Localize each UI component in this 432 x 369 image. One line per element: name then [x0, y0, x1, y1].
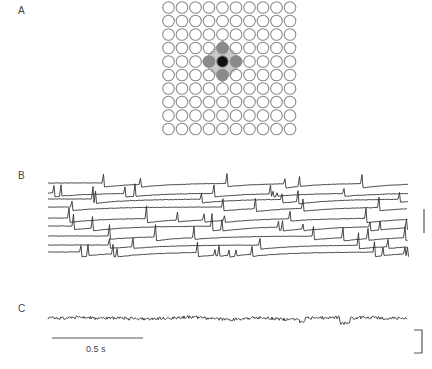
electrode-circle: [217, 15, 229, 27]
electrode-circle: [271, 123, 283, 135]
electrode-circle: [230, 56, 242, 68]
electrode-circle: [284, 42, 296, 54]
electrode-circle: [257, 56, 269, 68]
electrode-circle: [203, 2, 215, 14]
electrode-circle: [176, 123, 188, 135]
electrode-circle: [163, 123, 175, 135]
amplitude-scale-bracket: [414, 330, 422, 353]
electrode-circle: [271, 69, 283, 81]
electrode-circle: [271, 15, 283, 27]
electrode-circle: [217, 69, 229, 81]
electrode-circle: [230, 69, 242, 81]
electrode-circle: [176, 29, 188, 41]
single-trace-recording: [48, 316, 422, 353]
electrode-circle: [190, 96, 202, 108]
electrode-circle: [257, 15, 269, 27]
electrode-circle: [284, 56, 296, 68]
electrode-circle: [176, 83, 188, 95]
electrode-circle: [284, 110, 296, 122]
electrode-circle: [271, 83, 283, 95]
electrode-circle: [284, 29, 296, 41]
electrode-circle: [230, 123, 242, 135]
electrode-circle: [176, 96, 188, 108]
electrode-circle: [230, 15, 242, 27]
electrode-circle: [190, 83, 202, 95]
electrode-circle: [244, 42, 256, 54]
electrode-circle: [257, 29, 269, 41]
electrode-circle: [257, 96, 269, 108]
electrode-circle: [163, 2, 175, 14]
electrode-circle: [190, 29, 202, 41]
electrode-circle: [217, 110, 229, 122]
electrode-circle: [230, 29, 242, 41]
electrode-circle: [176, 15, 188, 27]
electrode-circle: [244, 69, 256, 81]
electrode-circle: [284, 96, 296, 108]
trace-line: [48, 174, 408, 188]
electrode-circle: [190, 110, 202, 122]
electrode-circle: [271, 42, 283, 54]
electrode-circle: [271, 96, 283, 108]
electrode-circle: [284, 15, 296, 27]
electrode-circle: [217, 83, 229, 95]
electrode-circle: [163, 56, 175, 68]
electrode-circle: [190, 2, 202, 14]
electrode-circle: [176, 2, 188, 14]
electrode-circle: [203, 123, 215, 135]
electrode-grid: [163, 2, 296, 135]
electrode-circle: [257, 110, 269, 122]
electrode-circle: [203, 42, 215, 54]
electrode-circle: [176, 110, 188, 122]
electrode-circle: [284, 123, 296, 135]
electrode-circle: [163, 15, 175, 27]
electrode-circle: [284, 69, 296, 81]
electrode-circle: [230, 96, 242, 108]
electrode-circle: [257, 2, 269, 14]
electrode-circle: [271, 29, 283, 41]
electrode-circle: [230, 83, 242, 95]
multi-trace-recording: [48, 174, 424, 257]
electrode-circle: [203, 69, 215, 81]
electrode-circle: [244, 96, 256, 108]
electrode-circle: [176, 56, 188, 68]
electrode-circle: [190, 69, 202, 81]
electrode-circle: [190, 15, 202, 27]
electrode-circle: [244, 123, 256, 135]
electrode-circle: [217, 123, 229, 135]
electrode-circle: [217, 2, 229, 14]
electrode-circle: [284, 83, 296, 95]
electrode-circle: [190, 56, 202, 68]
electrode-circle: [203, 83, 215, 95]
electrode-circle: [190, 123, 202, 135]
electrode-circle: [257, 69, 269, 81]
electrode-circle: [284, 2, 296, 14]
electrode-circle: [203, 110, 215, 122]
electrode-circle: [203, 56, 215, 68]
electrode-circle: [244, 2, 256, 14]
electrode-circle: [257, 42, 269, 54]
electrode-circle: [203, 96, 215, 108]
electrode-circle: [163, 69, 175, 81]
electrode-circle: [244, 83, 256, 95]
trace-line: [48, 233, 407, 249]
electrode-circle: [271, 2, 283, 14]
electrode-circle: [230, 2, 242, 14]
trace-line: [48, 242, 409, 257]
electrode-circle: [163, 29, 175, 41]
electrode-circle: [271, 56, 283, 68]
electrode-circle: [244, 56, 256, 68]
electrode-circle: [244, 15, 256, 27]
electrode-circle: [217, 96, 229, 108]
electrode-circle: [217, 29, 229, 41]
figure-canvas: [0, 0, 432, 369]
electrode-circle: [176, 42, 188, 54]
electrode-circle: [176, 69, 188, 81]
electrode-circle: [190, 42, 202, 54]
electrode-circle: [230, 42, 242, 54]
electrode-circle: [163, 42, 175, 54]
electrode-circle: [203, 15, 215, 27]
electrode-circle: [217, 56, 229, 68]
electrode-circle: [230, 110, 242, 122]
electrode-circle: [257, 83, 269, 95]
electrode-circle: [271, 110, 283, 122]
